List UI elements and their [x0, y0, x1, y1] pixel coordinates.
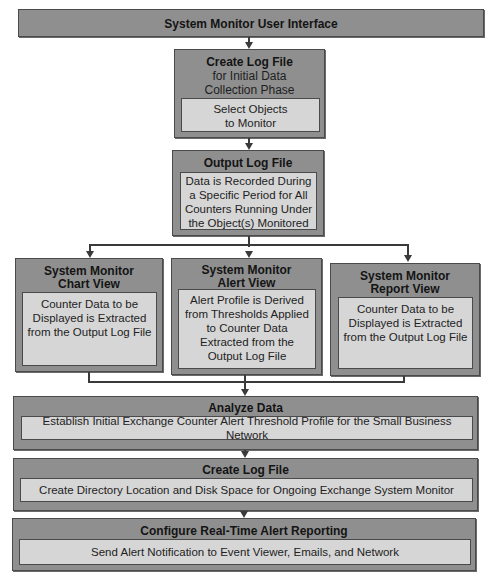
node-detail: Alert Profile is Derived from Thresholds…	[178, 289, 316, 369]
node-title: Output Log File	[173, 156, 323, 170]
connector-line	[88, 381, 405, 383]
arrow-down-icon	[240, 511, 248, 518]
detail-line: from the Output Log File	[27, 325, 151, 339]
node-title-line: System Monitor	[172, 263, 321, 277]
detail-line: from Thresholds Applied	[185, 307, 309, 321]
node-title: Configure Real-Time Alert Reporting	[13, 524, 475, 538]
detail-line: Counters Running Under	[185, 202, 312, 216]
node-subtitle-line: for Initial Data	[175, 69, 324, 84]
node-report-view: System Monitor Report View Counter Data …	[330, 263, 480, 376]
detail-line: Counter Data to be	[41, 297, 138, 311]
node-title-line: Chart View	[16, 277, 162, 291]
arrow-down-icon	[245, 251, 253, 258]
arrow-down-icon	[404, 255, 412, 262]
detail-line: Output Log File	[208, 349, 287, 363]
detail-line: to Monitor	[225, 116, 276, 130]
node-configure-alert-reporting: Configure Real-Time Alert Reporting Send…	[12, 518, 476, 571]
detail-line: Displayed is Extracted	[33, 311, 147, 325]
arrow-down-icon	[241, 451, 249, 458]
node-chart-view: System Monitor Chart View Counter Data t…	[15, 258, 163, 372]
node-alert-view: System Monitor Alert View Alert Profile …	[171, 258, 322, 375]
node-title-line: System Monitor	[16, 264, 162, 278]
node-detail: Send Alert Notification to Event Viewer,…	[19, 539, 471, 565]
node-title-line: Report View	[331, 282, 479, 296]
arrow-down-icon	[245, 42, 253, 49]
node-detail: Establish Initial Exchange Counter Alert…	[21, 416, 473, 440]
connector-line	[244, 375, 246, 390]
connector-line	[89, 244, 409, 246]
arrow-down-icon	[241, 389, 249, 396]
node-title: Create Log File	[14, 463, 477, 477]
node-create-log-file: Create Log File for Initial Data Collect…	[174, 49, 325, 138]
node-analyze-data: Analyze Data Establish Initial Exchange …	[13, 396, 478, 450]
node-output-log-file: Output Log File Data is Recorded During …	[172, 150, 324, 236]
arrow-down-icon	[86, 251, 94, 258]
detail-line: the Object(s) Monitored	[188, 216, 308, 230]
node-detail-select-objects: Select Objects to Monitor	[181, 98, 320, 132]
detail-line: Extracted from the	[200, 335, 294, 349]
node-title-line: Alert View	[172, 276, 321, 290]
node-detail-recording: Data is Recorded During a Specific Perio…	[180, 172, 317, 230]
node-title-line: System Monitor	[331, 269, 479, 283]
detail-line: Counter Data to be	[357, 302, 454, 316]
detail-line: to Counter Data	[206, 321, 287, 335]
detail-line: a Specific Period for All	[189, 188, 307, 202]
node-detail: Counter Data to be Displayed is Extracte…	[22, 292, 157, 366]
detail-line: Displayed is Extracted	[349, 316, 463, 330]
node-create-log-file-ongoing: Create Log File Create Directory Locatio…	[13, 458, 478, 511]
node-title: System Monitor User Interface	[19, 17, 483, 31]
detail-line: Data is Recorded During	[186, 174, 312, 188]
node-system-monitor-user-interface: System Monitor User Interface	[18, 9, 484, 37]
detail-line: from the Output Log File	[343, 330, 467, 344]
node-subtitle-line: Collection Phase	[175, 83, 324, 98]
detail-line: Alert Profile is Derived	[190, 293, 304, 307]
node-detail: Counter Data to be Displayed is Extracte…	[338, 297, 473, 369]
node-detail: Create Directory Location and Disk Space…	[20, 478, 473, 502]
detail-line: Select Objects	[213, 102, 287, 116]
node-title: Analyze Data	[14, 401, 477, 415]
node-title: Create Log File	[175, 55, 324, 69]
arrow-down-icon	[245, 143, 253, 150]
